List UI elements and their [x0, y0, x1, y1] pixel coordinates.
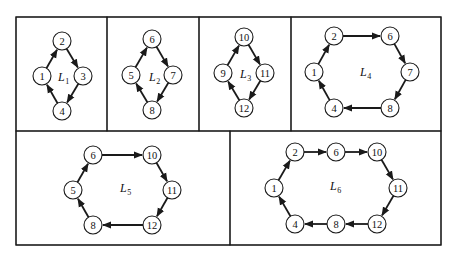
node-label: 5	[70, 185, 75, 196]
node-label: 8	[149, 105, 154, 116]
node-label: 2	[292, 147, 297, 158]
arrow-edge-1-to-2	[318, 45, 329, 64]
panel-label: L2	[148, 70, 160, 86]
node-12: 12	[235, 99, 253, 117]
arrow-edge-5-to-6	[136, 48, 147, 68]
arrow-edge-4-to-1	[279, 197, 290, 217]
node-label: 12	[147, 220, 158, 231]
node-11: 11	[163, 181, 181, 199]
arrow-edge-9-to-10	[228, 46, 239, 66]
node-label: 10	[239, 32, 250, 43]
arrow-edge-1-to-2	[46, 50, 57, 69]
arrow-edge-8-to-5	[78, 199, 89, 218]
node-label: 8	[333, 219, 338, 230]
node-label: 4	[331, 103, 337, 114]
node-10: 10	[368, 143, 386, 161]
node-label: 10	[372, 147, 383, 158]
node-label: 4	[292, 219, 298, 230]
node-label: 11	[167, 185, 177, 196]
node-3: 3	[74, 67, 92, 85]
arrow-edge-6-to-7	[157, 47, 168, 67]
node-8: 8	[84, 216, 102, 234]
node-8: 8	[381, 99, 399, 117]
node-label: 11	[260, 68, 270, 79]
node-6: 6	[327, 143, 345, 161]
arrow-edge-10-to-11	[249, 45, 260, 65]
node-1: 1	[33, 67, 51, 85]
node-2: 2	[286, 143, 304, 161]
arrow-edge-6-to-7	[394, 44, 405, 63]
arrow-edge-11-to-12	[382, 196, 393, 216]
node-4: 4	[53, 102, 71, 120]
node-label: 3	[80, 71, 85, 82]
panel-label: L6	[329, 179, 341, 195]
node-label: 6	[333, 147, 338, 158]
node-7: 7	[164, 66, 182, 84]
node-11: 11	[389, 179, 407, 197]
panel-l5: 610111285L5	[16, 131, 230, 245]
node-label: 2	[59, 36, 64, 47]
panel-l3: 1011129L3	[199, 17, 291, 131]
panel-label: L5	[119, 181, 131, 197]
node-label: 6	[90, 150, 95, 161]
node-5: 5	[122, 66, 140, 84]
panels-layer: 2341L16785L21011129L3267841L4610111285L5…	[16, 17, 441, 245]
arrow-edge-2-to-3	[67, 49, 78, 68]
panel-l6: 26101112841L6	[230, 131, 441, 245]
arrow-edge-1-to-2	[279, 161, 290, 181]
arrow-edge-5-to-6	[77, 164, 88, 183]
panel-label: L1	[57, 70, 69, 86]
panel-l4: 267841L4	[291, 17, 441, 131]
node-label: 2	[331, 31, 336, 42]
arrow-edge-8-to-5	[136, 84, 147, 103]
node-10: 10	[235, 28, 253, 46]
node-4: 4	[286, 215, 304, 233]
node-label: 8	[387, 103, 392, 114]
arrow-edge-11-to-12	[157, 198, 168, 217]
panel-label: L4	[359, 65, 371, 81]
node-1: 1	[265, 179, 283, 197]
node-label: 8	[90, 220, 95, 231]
arrow-edge-3-to-4	[67, 84, 78, 103]
node-label: 1	[271, 183, 276, 194]
panel-l2: 6785L2	[107, 17, 199, 131]
panel-l1: 2341L1	[16, 17, 107, 131]
node-label: 10	[147, 150, 158, 161]
node-1: 1	[305, 63, 323, 81]
node-label: 11	[393, 183, 403, 194]
arrow-edge-4-to-1	[47, 85, 58, 104]
arrow-edge-10-to-11	[156, 163, 167, 182]
node-label: 4	[59, 106, 65, 117]
node-label: 12	[372, 219, 383, 230]
node-label: 6	[387, 31, 392, 42]
node-12: 12	[368, 215, 386, 233]
node-6: 6	[84, 146, 102, 164]
node-2: 2	[53, 32, 71, 50]
node-9: 9	[214, 64, 232, 82]
node-12: 12	[143, 216, 161, 234]
arrow-edge-12-to-9	[228, 82, 239, 101]
node-10: 10	[143, 146, 161, 164]
node-6: 6	[381, 27, 399, 45]
node-2: 2	[325, 27, 343, 45]
panel-label: L3	[239, 67, 251, 83]
node-5: 5	[64, 181, 82, 199]
node-8: 8	[327, 215, 345, 233]
node-6: 6	[143, 30, 161, 48]
node-label: 6	[149, 34, 154, 45]
node-label: 7	[407, 67, 412, 78]
arrow-edge-7-to-8	[395, 80, 406, 99]
node-label: 7	[170, 70, 175, 81]
node-label: 9	[220, 68, 225, 79]
node-label: 12	[239, 103, 250, 114]
node-7: 7	[401, 63, 419, 81]
node-label: 1	[311, 67, 316, 78]
node-8: 8	[143, 101, 161, 119]
arrow-edge-10-to-11	[382, 160, 393, 180]
node-11: 11	[256, 64, 274, 82]
node-4: 4	[325, 99, 343, 117]
arrow-edge-4-to-1	[319, 81, 330, 100]
node-label: 5	[128, 70, 133, 81]
node-label: 1	[39, 71, 44, 82]
cycle-diagram-figure: 2341L16785L21011129L3267841L4610111285L5…	[0, 0, 453, 256]
